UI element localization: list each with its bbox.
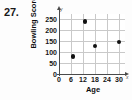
x-axis-title: Age bbox=[59, 85, 127, 94]
y-axis-title: Bowling Score bbox=[29, 0, 38, 54]
data-point bbox=[83, 19, 88, 24]
x-tick-label: 30 bbox=[112, 76, 126, 83]
gridline-horizontal bbox=[59, 41, 125, 42]
y-axis-letter: y bbox=[60, 6, 63, 12]
gridline-vertical bbox=[71, 14, 72, 74]
problem-number: 27. bbox=[4, 6, 19, 18]
x-axis-letter: x bbox=[126, 74, 129, 80]
gridline-vertical bbox=[107, 14, 108, 74]
gridline-horizontal bbox=[59, 52, 125, 53]
gridline-horizontal bbox=[59, 19, 125, 20]
data-point bbox=[71, 54, 76, 59]
data-point bbox=[93, 44, 98, 49]
figure-container: 27. 050100150200250 Bowling Score y x 06… bbox=[0, 0, 132, 100]
scatter-chart: 050100150200250 Bowling Score y x 061218… bbox=[28, 6, 130, 96]
gridline-horizontal bbox=[59, 30, 125, 31]
data-point bbox=[117, 40, 122, 45]
y-tick-label: 50 bbox=[29, 60, 57, 67]
gridline-vertical bbox=[119, 14, 120, 74]
plot-area bbox=[59, 14, 125, 74]
y-axis-line bbox=[59, 10, 60, 76]
gridline-horizontal bbox=[59, 63, 125, 64]
